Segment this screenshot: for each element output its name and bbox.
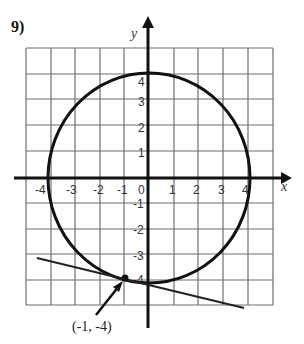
problem-number: 9) [11,18,24,36]
x-tick: -2 [93,183,104,197]
x-axis-label: x [280,179,288,194]
y-tick: -1 [133,197,144,211]
point-label: (-1, -4) [72,319,112,335]
coordinate-plane-figure: 9) x y -4 -3 -2 -1 0 1 [0,0,304,344]
x-tick: 2 [193,183,200,197]
x-tick: -4 [35,183,46,197]
x-tick: 1 [169,183,176,197]
x-tick: 0 [138,183,145,197]
tangent-point [122,275,129,282]
y-tick: 4 [138,75,145,89]
x-tick-labels: -4 -3 -2 -1 0 1 2 3 4 [35,183,249,197]
x-tick: -1 [117,183,128,197]
y-tick: -3 [133,249,144,263]
y-tick-labels: 4 3 2 1 -1 -2 -3 -4 [133,75,145,287]
x-tick: -3 [66,183,77,197]
y-axis-arrow-icon [142,16,154,28]
y-tick: 2 [138,121,145,135]
y-axis-label: y [129,26,138,41]
y-tick: -2 [133,223,144,237]
tangent-line [37,258,244,308]
y-tick: 3 [138,95,145,109]
x-tick: 3 [218,183,225,197]
y-axis [142,16,154,328]
y-tick: 1 [138,146,145,160]
y-tick: -4 [133,273,144,287]
